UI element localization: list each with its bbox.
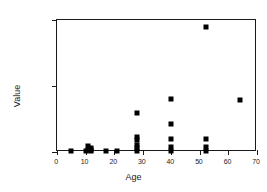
data-point	[135, 111, 140, 116]
data-point	[115, 148, 120, 153]
y-axis-label: Value	[12, 85, 22, 107]
x-tick-label: 40	[167, 158, 174, 165]
x-tick-mark	[257, 150, 258, 155]
data-point	[169, 96, 174, 101]
x-tick-label: 50	[195, 158, 202, 165]
x-tick-label: 30	[138, 158, 145, 165]
x-tick-label: 10	[81, 158, 88, 165]
data-point	[69, 148, 74, 153]
x-tick-mark	[200, 150, 201, 155]
data-point	[103, 148, 108, 153]
scatter-chart-figure: Value Age 010002000 010203040506070	[0, 0, 267, 192]
data-point	[203, 24, 208, 29]
data-point	[237, 97, 242, 102]
data-point	[169, 122, 174, 127]
data-point-layer	[57, 20, 255, 150]
data-point	[169, 137, 174, 142]
x-tick-label: 60	[224, 158, 231, 165]
data-point	[135, 134, 140, 139]
x-tick-mark	[228, 150, 229, 155]
plot-area	[56, 19, 256, 151]
data-point	[203, 137, 208, 142]
data-point	[169, 145, 174, 150]
x-tick-label: 70	[252, 158, 259, 165]
data-point	[135, 142, 140, 147]
x-tick-label: 0	[54, 158, 58, 165]
data-point	[89, 148, 94, 153]
x-tick-mark	[57, 150, 58, 155]
x-axis-label: Age	[0, 172, 267, 182]
data-point	[203, 145, 208, 150]
x-tick-label: 20	[109, 158, 116, 165]
x-tick-mark	[143, 150, 144, 155]
